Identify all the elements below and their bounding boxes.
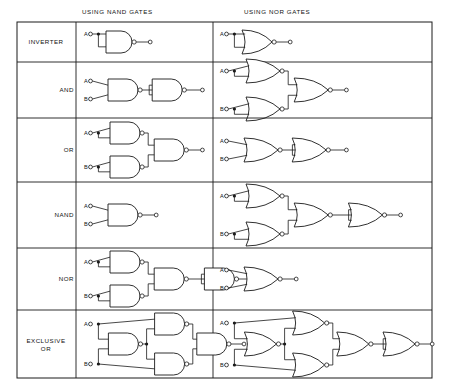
inverting-bubble (132, 40, 136, 44)
wire (228, 229, 249, 234)
inverting-bubble (140, 131, 144, 135)
or-input-a-label: A (84, 130, 88, 136)
inverting-bubble (234, 277, 238, 281)
nand-input-a-label: A (84, 203, 88, 209)
nor-link-a (144, 262, 154, 274)
inverter-input-a-label: A (220, 31, 224, 37)
and-input-a-label: A (84, 78, 88, 84)
wire (228, 66, 249, 71)
nor-nor-gate-1 (244, 267, 278, 291)
nor-nand-gate-3 (154, 268, 184, 290)
exclusive-or-g2-in-b (147, 329, 155, 344)
nor-input-b-label: B (220, 285, 224, 291)
terminal (89, 32, 93, 36)
inverting-bubble (184, 277, 188, 281)
nor-nand-gate-1 (110, 251, 140, 273)
wire (92, 220, 108, 224)
inverter-input-a-label: A (84, 31, 88, 37)
exclusive-or-nor-gate-3 (293, 353, 325, 377)
terminal (225, 268, 229, 272)
terminal (89, 294, 93, 298)
and-nor-gate-3 (294, 78, 328, 102)
terminal (154, 213, 158, 217)
inverting-bubble (369, 342, 373, 346)
terminal (345, 148, 349, 152)
terminal (89, 97, 93, 101)
terminal (148, 40, 152, 44)
inverting-bubble (138, 342, 142, 346)
nand-nor-gate-3 (294, 203, 328, 227)
exclusive-or-nor-gate-2 (293, 311, 325, 335)
inverting-bubble (280, 107, 284, 111)
exclusive-or-g3-in-a (147, 344, 155, 359)
nor-input-a-label: A (84, 259, 88, 265)
exclusive-or-nor-gate-1 (244, 332, 276, 356)
nand-input-b-label: B (220, 231, 224, 237)
nor-tie-a (98, 262, 110, 267)
inverting-bubble (272, 40, 276, 44)
terminal (225, 321, 229, 325)
or-nor-gate-1 (244, 138, 278, 162)
or-input-b-label: B (84, 164, 88, 170)
exclusive-or-input-a-label: A (84, 321, 88, 327)
inverter-tie-wire (234, 34, 245, 47)
and-tie-b (234, 109, 249, 114)
inverting-bubble (140, 294, 144, 298)
terminal (294, 277, 298, 281)
inverting-bubble (140, 165, 144, 169)
wire (92, 95, 108, 99)
inverting-bubble (227, 342, 231, 346)
wire (92, 206, 108, 210)
nand-input-a-label: A (220, 193, 224, 199)
and-input-b-label: B (84, 96, 88, 102)
inverter-tie-wire (98, 34, 106, 47)
inverting-bubble (325, 363, 329, 367)
and-input-b-label: B (220, 106, 224, 112)
inverting-bubble (415, 342, 419, 346)
and-input-a-label: A (220, 68, 224, 74)
terminal (89, 204, 93, 208)
terminal (89, 222, 93, 226)
terminal (288, 40, 292, 44)
nand-nor-gate-2 (246, 222, 280, 246)
wire (92, 162, 110, 167)
inverting-bubble (328, 213, 332, 217)
exclusive-or-nand-gate-3 (155, 353, 185, 375)
exclusive-or-nand-gate-1 (108, 333, 138, 355)
wire (92, 128, 110, 133)
wire (92, 291, 110, 296)
or-nor-gate-2 (292, 138, 326, 162)
or-nand-gate-1 (110, 122, 140, 144)
terminal (225, 69, 229, 73)
inverting-bubble (325, 321, 329, 325)
exclusive-or-g1-in-a (234, 323, 247, 339)
logic-gate-equivalents-figure: USING NAND GATES USING NOR GATES INVERTE… (0, 0, 449, 389)
nand-tie-a (234, 196, 249, 201)
terminal (430, 342, 434, 346)
exclusive-or-g4-in-a (189, 324, 197, 339)
terminal (225, 107, 229, 111)
nand-tie-b (234, 234, 249, 239)
inverting-bubble (280, 194, 284, 198)
nand-nand-gate-1 (108, 204, 138, 226)
exclusive-or-g1-in-b (234, 349, 247, 365)
or-nand-gate-2 (110, 156, 140, 178)
wire (98, 319, 154, 324)
inverting-bubble (326, 148, 330, 152)
exclusive-or-g4-in-b (189, 349, 197, 364)
nor-tie-b (98, 296, 110, 301)
nor-input-b-label: B (84, 293, 88, 299)
and-tie-a (234, 71, 249, 76)
inverting-bubble (140, 260, 144, 264)
wire (228, 191, 249, 196)
wire (92, 257, 110, 262)
nor-link-b (144, 284, 154, 296)
terminal (89, 362, 93, 366)
wire (234, 365, 295, 370)
exclusive-or-input-b-label: B (84, 361, 88, 367)
nand-input-b-label: B (84, 221, 88, 227)
inverting-bubble (184, 148, 188, 152)
terminal (225, 32, 229, 36)
exclusive-or-nor-gate-5 (383, 332, 415, 356)
or-input-a-label: A (220, 138, 224, 144)
